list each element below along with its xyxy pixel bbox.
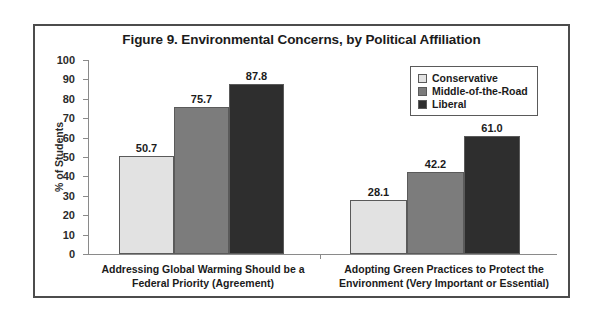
y-axis-tick-label: 80: [63, 93, 75, 105]
y-axis-tick: 90: [83, 79, 88, 80]
bar[interactable]: 87.8: [229, 84, 284, 254]
bar-value-label: 42.2: [425, 158, 446, 170]
bar[interactable]: 61.0: [464, 136, 520, 254]
bar-value-label: 61.0: [481, 122, 502, 134]
category-label-line: Environment (Very Important or Essential…: [304, 276, 584, 290]
category-label: Adopting Green Practices to Protect theE…: [304, 262, 584, 290]
y-axis-tick-label: 50: [63, 151, 75, 163]
y-axis-tick-label: 60: [63, 132, 75, 144]
y-axis-tick: 100: [83, 60, 88, 61]
bar-value-label: 75.7: [191, 93, 212, 105]
legend-item-label: Liberal: [432, 98, 466, 110]
y-axis-tick: 50: [83, 157, 88, 158]
y-axis-tick: 70: [83, 118, 88, 119]
bar[interactable]: 50.7: [119, 156, 174, 254]
y-axis-tick: 10: [83, 235, 88, 236]
category-label: Addressing Global Warming Should be aFed…: [68, 262, 338, 290]
y-axis-tick: 0: [83, 254, 88, 255]
y-axis-tick: 80: [83, 99, 88, 100]
y-axis-tick-label: 10: [63, 229, 75, 241]
bar-value-label: 87.8: [246, 70, 267, 82]
y-axis-tick-label: 40: [63, 170, 75, 182]
bar[interactable]: 75.7: [174, 107, 229, 254]
y-axis-tick: 20: [83, 215, 88, 216]
chart-title: Figure 9. Environmental Concerns, by Pol…: [35, 32, 568, 47]
legend-item[interactable]: Conservative: [418, 72, 531, 84]
category-divider-tick: [320, 254, 321, 259]
legend-item[interactable]: Liberal: [418, 98, 531, 110]
chart-legend: ConservativeMiddle-of-the-RoadLiberal: [410, 66, 538, 116]
y-axis-tick-label: 70: [63, 112, 75, 124]
y-axis-tick-label: 100: [57, 54, 75, 66]
y-axis-tick-label: 90: [63, 73, 75, 85]
y-axis-tick: 60: [83, 138, 88, 139]
y-axis-tick: 40: [83, 176, 88, 177]
legend-item[interactable]: Middle-of-the-Road: [418, 85, 531, 97]
legend-item-label: Conservative: [432, 72, 498, 84]
x-axis-line: [88, 254, 557, 255]
y-axis-tick-label: 30: [63, 190, 75, 202]
bar[interactable]: 42.2: [407, 172, 464, 254]
category-label-line: Adopting Green Practices to Protect the: [304, 262, 584, 276]
legend-swatch-icon: [418, 74, 427, 83]
y-axis-tick-label: 0: [69, 248, 75, 260]
bar-value-label: 50.7: [136, 142, 157, 154]
category-label-line: Federal Priority (Agreement): [68, 276, 338, 290]
bar-value-label: 28.1: [368, 186, 389, 198]
y-axis-tick-label: 20: [63, 209, 75, 221]
legend-swatch-icon: [418, 87, 427, 96]
figure-frame: Figure 9. Environmental Concerns, by Pol…: [33, 24, 570, 298]
y-axis-tick: 30: [83, 196, 88, 197]
y-axis-line: [88, 60, 89, 254]
category-label-line: Addressing Global Warming Should be a: [68, 262, 338, 276]
legend-item-label: Middle-of-the-Road: [432, 85, 528, 97]
bar[interactable]: 28.1: [350, 200, 407, 255]
legend-swatch-icon: [418, 100, 427, 109]
